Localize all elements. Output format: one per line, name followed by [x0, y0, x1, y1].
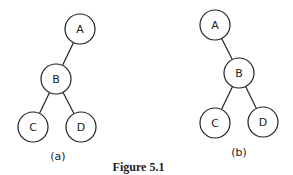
node-label: D: [77, 121, 85, 134]
node-c: C: [200, 108, 230, 138]
node-label: A: [211, 19, 219, 32]
node-label: B: [52, 73, 60, 86]
node-label: B: [235, 67, 243, 80]
node-a: A: [65, 14, 95, 44]
node-b: B: [224, 58, 254, 88]
tree-diagram: ABCD(a)ABCD(b): [0, 0, 293, 175]
edge-b-d: [246, 86, 257, 108]
figure-caption: Figure 5.1: [0, 160, 277, 175]
node-label: C: [29, 121, 37, 134]
edge-b-c: [221, 87, 232, 110]
node-b: B: [41, 64, 71, 94]
edge-b-c: [39, 93, 49, 114]
tree-a: ABCD(a): [18, 14, 96, 163]
edge-a-b: [62, 43, 73, 66]
subfigure-label: (b): [231, 146, 247, 159]
node-label: D: [259, 116, 267, 129]
node-label: A: [76, 23, 84, 36]
tree-b: ABCD(b): [200, 10, 278, 159]
node-d: D: [248, 107, 278, 137]
node-c: C: [18, 112, 48, 142]
edge-b-d: [63, 92, 74, 113]
node-label: C: [211, 117, 219, 130]
edge-a-b: [222, 38, 233, 59]
node-a: A: [200, 10, 230, 40]
node-d: D: [66, 112, 96, 142]
